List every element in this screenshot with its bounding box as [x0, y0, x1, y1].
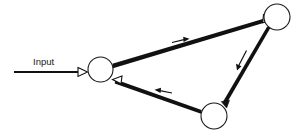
network-diagram: Input — [0, 0, 304, 136]
edge-bottom-to-left-group — [113, 76, 202, 114]
top-right-node[interactable] — [264, 4, 290, 30]
edge-left-to-topright-shape — [112, 19, 265, 69]
input-arrow-group — [14, 68, 88, 77]
direction-marker-left-icon — [155, 88, 173, 93]
edge-topright-to-bottom-shape — [223, 26, 270, 103]
input-arrowhead-icon — [78, 68, 88, 77]
direction-marker-right-icon — [172, 37, 190, 43]
bottom-node[interactable] — [201, 103, 227, 129]
input-label: Input — [33, 56, 54, 67]
diagram-canvas: Input — [0, 0, 304, 136]
edge-bottom-to-left-shape — [115, 80, 202, 114]
left-node[interactable] — [88, 57, 113, 82]
edge-topright-to-bottom-group — [221, 26, 270, 108]
